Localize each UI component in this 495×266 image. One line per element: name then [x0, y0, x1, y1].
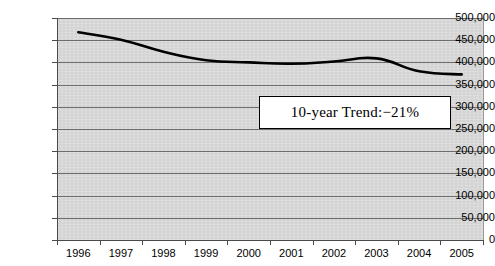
x-axis-tick-mark	[398, 240, 399, 245]
x-axis-tick-label: 2005	[432, 247, 492, 259]
x-axis-tick-mark	[227, 240, 228, 245]
x-axis-tick-mark	[142, 240, 143, 245]
trend-annotation-label: 10-year Trend:−21%	[291, 104, 419, 121]
x-axis-tick-mark	[440, 240, 441, 245]
x-axis-tick-mark	[185, 240, 186, 245]
x-axis-tick-mark	[483, 240, 484, 245]
x-axis-tick-mark	[355, 240, 356, 245]
x-axis-tick-mark	[100, 240, 101, 245]
x-axis-tick-mark	[313, 240, 314, 245]
trend-annotation-box: 10-year Trend:−21%	[259, 96, 451, 129]
x-axis-tick-mark	[270, 240, 271, 245]
series-path	[78, 32, 461, 74]
data-series-line	[57, 18, 483, 240]
line-chart: 050,000100,000150,000200,000250,000300,0…	[0, 0, 495, 266]
x-axis-tick-mark	[57, 240, 58, 245]
